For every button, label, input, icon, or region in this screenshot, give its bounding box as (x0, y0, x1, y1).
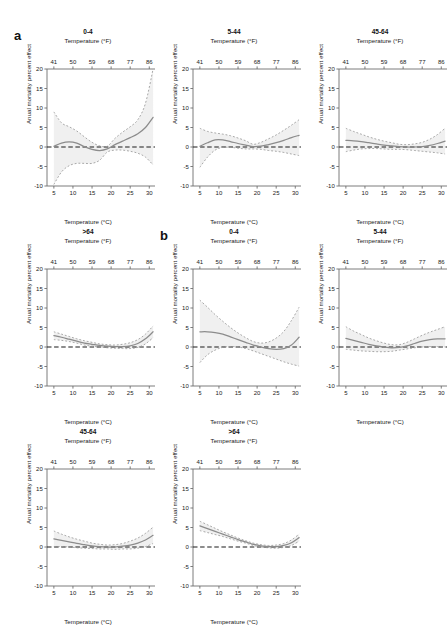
x-tick-label-fahrenheit: 77 (127, 459, 134, 465)
series-group (47, 326, 155, 349)
x-tick-label-celsius: 5 (198, 390, 202, 396)
series-group (193, 120, 301, 168)
x-tick-label-fahrenheit: 68 (108, 59, 115, 65)
y-tick-label: 0 (185, 144, 189, 150)
x-tick-label-fahrenheit: 86 (292, 459, 299, 465)
chart-panel-b-gt64: >64Temperature (°F)Temperature (°C)Anual… (160, 428, 308, 626)
x-tick-label-celsius: 20 (108, 390, 115, 396)
y-tick-label: 5 (185, 525, 189, 531)
x-tick-label-fahrenheit: 50 (70, 459, 77, 465)
x-tick-label-celsius: 25 (127, 590, 134, 596)
y-tick-label: 20 (328, 66, 335, 72)
y-tick-label: 0 (331, 144, 335, 150)
x-tick-label-fahrenheit: 86 (438, 259, 445, 265)
y-tick-label: 20 (36, 466, 43, 472)
y-tick-label: 5 (185, 325, 189, 331)
x-tick-label-celsius: 30 (146, 190, 153, 196)
chart-panel-a-45-64: 45-64Temperature (°F)Temperature (°C)Anu… (306, 28, 448, 226)
x-tick-label-fahrenheit: 59 (235, 259, 242, 265)
x-tick-label-fahrenheit: 77 (273, 59, 280, 65)
y-tick-label: -5 (329, 164, 335, 170)
x-tick-label-celsius: 20 (400, 190, 407, 196)
x-tick-label-fahrenheit: 77 (419, 259, 426, 265)
y-tick-label: 15 (36, 86, 43, 92)
y-tick-label: -5 (183, 564, 189, 570)
x-tick-label-celsius: 10 (70, 390, 77, 396)
x-tick-label-fahrenheit: 86 (438, 59, 445, 65)
x-tick-label-fahrenheit: 50 (362, 259, 369, 265)
x-tick-label-celsius: 10 (216, 390, 223, 396)
chart-panel-b-45-64: 45-64Temperature (°F)Temperature (°C)Anu… (14, 428, 162, 626)
confidence-band (200, 300, 299, 366)
x-tick-label-celsius: 15 (235, 590, 242, 596)
x-tick-label-celsius: 5 (198, 190, 202, 196)
y-tick-label: -5 (329, 364, 335, 370)
y-tick-label: 20 (182, 66, 189, 72)
y-tick-label: -10 (326, 183, 335, 189)
x-tick-label-fahrenheit: 77 (419, 59, 426, 65)
x-tick-label-fahrenheit: 50 (362, 59, 369, 65)
y-tick-label: -10 (180, 383, 189, 389)
y-tick-label: -10 (180, 183, 189, 189)
x-tick-label-celsius: 15 (235, 190, 242, 196)
x-tick-label-fahrenheit: 77 (273, 259, 280, 265)
x-tick-label-fahrenheit: 41 (343, 59, 350, 65)
y-tick-label: 5 (39, 125, 43, 131)
x-tick-label-celsius: 15 (235, 390, 242, 396)
x-tick-label-fahrenheit: 86 (292, 59, 299, 65)
group-label-a: a (14, 28, 21, 43)
x-tick-label-fahrenheit: 86 (146, 259, 153, 265)
y-tick-label: 20 (36, 66, 43, 72)
x-tick-label-fahrenheit: 50 (216, 59, 223, 65)
x-tick-label-fahrenheit: 41 (197, 459, 204, 465)
plot-area: -10-50510152051015202530415059687786 (306, 28, 448, 226)
y-tick-label: 10 (182, 105, 189, 111)
x-tick-label-celsius: 5 (52, 190, 56, 196)
y-tick-label: -10 (34, 183, 43, 189)
y-tick-label: 20 (36, 266, 43, 272)
y-tick-label: 15 (182, 286, 189, 292)
x-tick-label-fahrenheit: 41 (51, 59, 58, 65)
x-tick-label-fahrenheit: 41 (343, 259, 350, 265)
y-tick-label: 15 (328, 286, 335, 292)
y-tick-label: 5 (39, 525, 43, 531)
x-tick-label-fahrenheit: 86 (292, 259, 299, 265)
y-tick-label: 0 (39, 544, 43, 550)
x-tick-label-celsius: 5 (52, 390, 56, 396)
y-tick-label: -5 (37, 164, 43, 170)
x-tick-label-celsius: 30 (292, 390, 299, 396)
plot-area: -10-50510152051015202530415059687786 (160, 28, 308, 226)
y-tick-label: 10 (36, 305, 43, 311)
series-group (193, 300, 301, 366)
plot-area: -10-50510152051015202530415059687786 (160, 228, 308, 426)
y-tick-label: -5 (183, 364, 189, 370)
y-tick-label: 0 (331, 344, 335, 350)
x-tick-label-fahrenheit: 59 (89, 459, 96, 465)
x-tick-label-celsius: 10 (362, 190, 369, 196)
y-tick-label: -5 (183, 164, 189, 170)
x-tick-label-fahrenheit: 68 (400, 259, 407, 265)
x-tick-label-fahrenheit: 86 (146, 59, 153, 65)
x-tick-label-celsius: 30 (438, 390, 445, 396)
x-tick-label-celsius: 15 (381, 190, 388, 196)
x-tick-label-fahrenheit: 59 (235, 459, 242, 465)
y-tick-label: -10 (180, 583, 189, 589)
x-tick-label-fahrenheit: 59 (381, 59, 388, 65)
series-group (339, 128, 447, 154)
chart-panel-a-gt64: >64Temperature (°F)Temperature (°C)Anual… (14, 228, 162, 426)
x-tick-label-fahrenheit: 68 (108, 259, 115, 265)
x-tick-label-celsius: 15 (89, 390, 96, 396)
plot-area: -10-50510152051015202530415059687786 (306, 228, 448, 426)
y-tick-label: -5 (37, 564, 43, 570)
x-tick-label-celsius: 20 (108, 190, 115, 196)
chart-panel-a-5-44: 5-44Temperature (°F)Temperature (°C)Anua… (160, 28, 308, 226)
x-tick-label-celsius: 30 (146, 590, 153, 596)
x-tick-label-celsius: 10 (216, 590, 223, 596)
x-tick-label-celsius: 15 (89, 190, 96, 196)
series-group (47, 69, 155, 184)
confidence-band (54, 326, 153, 349)
x-tick-label-fahrenheit: 77 (127, 59, 134, 65)
y-tick-label: 15 (36, 286, 43, 292)
x-tick-label-celsius: 5 (52, 590, 56, 596)
